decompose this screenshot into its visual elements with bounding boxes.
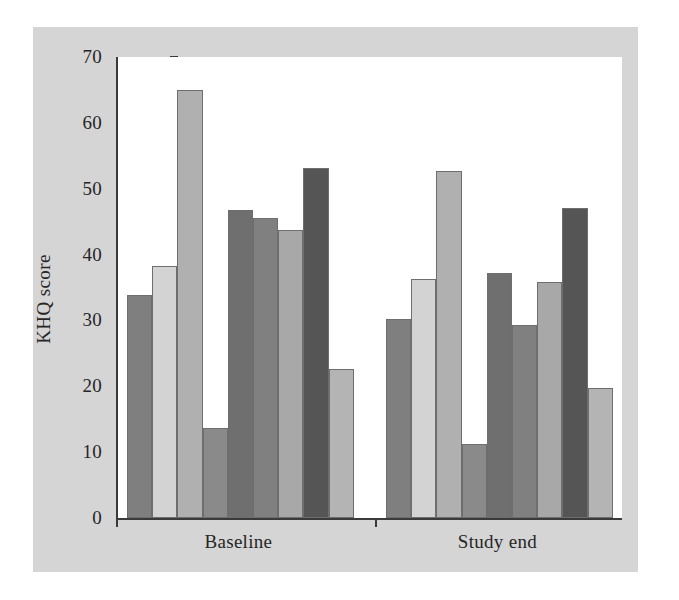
y-axis-title: KHQ score — [33, 209, 55, 389]
bar — [386, 319, 411, 518]
bar — [152, 266, 177, 518]
y-axis-tick-labels: 010203040506070 — [62, 0, 112, 600]
figure: KHQ score 010203040506070 BaselineStudy … — [0, 0, 679, 600]
bar — [228, 210, 253, 518]
bar — [303, 168, 328, 518]
y-axis-tick-label: 30 — [82, 309, 102, 331]
y-axis-tick-label: 0 — [92, 507, 102, 529]
bar — [203, 428, 228, 518]
bar — [487, 273, 512, 518]
bar — [411, 279, 436, 518]
y-axis-tick-label: 70 — [82, 46, 102, 68]
bar — [588, 388, 613, 518]
bar — [436, 171, 461, 518]
bar — [253, 218, 278, 518]
bar — [329, 369, 354, 518]
y-axis-tick-label: 40 — [82, 244, 102, 266]
y-axis-tick-label: 10 — [82, 441, 102, 463]
x-axis-tick-mark — [375, 518, 377, 527]
y-axis-tick-label: 20 — [82, 375, 102, 397]
x-axis-group-label: Study end — [458, 531, 537, 553]
x-axis-group-label: Baseline — [204, 531, 272, 553]
bar — [127, 295, 152, 518]
x-axis-tick-mark — [116, 518, 118, 527]
bar — [537, 282, 562, 518]
bar — [562, 208, 587, 518]
y-axis-tick-label: 60 — [82, 112, 102, 134]
y-axis-tick-label: 50 — [82, 178, 102, 200]
bar — [462, 444, 487, 518]
bar — [278, 230, 303, 518]
bar — [512, 325, 537, 518]
plot-area — [116, 57, 622, 520]
bar — [177, 90, 202, 518]
